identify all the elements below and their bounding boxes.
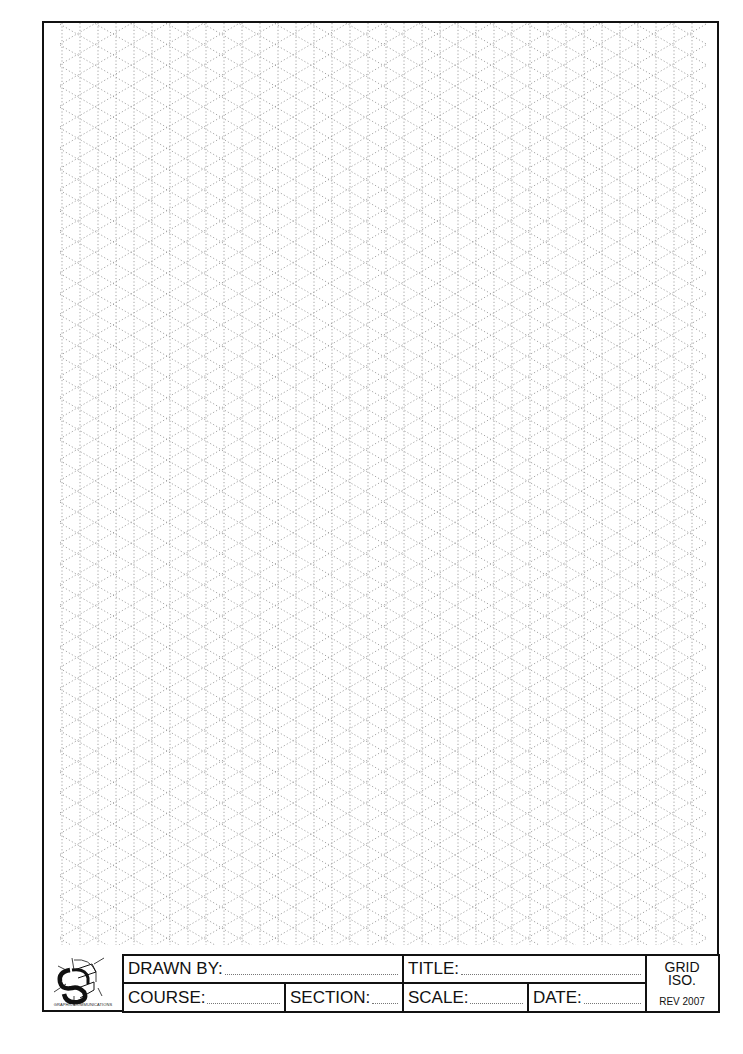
- section-field[interactable]: SECTION:: [286, 984, 402, 1012]
- drawn-by-field[interactable]: DRAWN BY:: [124, 956, 402, 982]
- section-label: SECTION:: [290, 988, 370, 1008]
- date-field[interactable]: DATE:: [529, 984, 645, 1012]
- date-label: DATE:: [533, 988, 582, 1008]
- course-field[interactable]: COURSE:: [124, 984, 284, 1012]
- title-field[interactable]: TITLE:: [404, 956, 645, 982]
- grid-type-cell: GRID ISO. REV 2007: [646, 955, 718, 1011]
- grid-type-label: ISO.: [646, 974, 718, 987]
- scale-label: SCALE:: [408, 988, 468, 1008]
- logo-caption: GRAPHIC COMMUNICATIONS: [45, 1002, 121, 1007]
- drawn-by-label: DRAWN BY:: [128, 959, 223, 979]
- course-label: COURSE:: [128, 988, 205, 1008]
- isometric-grid: [60, 23, 706, 945]
- title-label: TITLE:: [408, 959, 459, 979]
- revision-label: REV 2007: [646, 996, 718, 1007]
- scale-field[interactable]: SCALE:: [404, 984, 527, 1012]
